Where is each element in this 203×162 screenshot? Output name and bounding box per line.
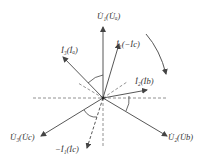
rotation-arrow-icon: [146, 34, 166, 74]
label-U1: U̇₁(U̇ₐ): [97, 12, 120, 21]
label-negI1: −İ₁(İc): [55, 145, 79, 154]
angle-arc-U3-negI1: [84, 110, 97, 117]
label-U3: U̇₃(U̇c): [10, 133, 35, 142]
angle-arc-I3-U1: [88, 75, 103, 83]
label-I3: İ₃(İₐ): [61, 46, 78, 55]
label-I1: İ₁(−İc): [116, 40, 140, 49]
reference-axes: [33, 82, 167, 148]
phasor-diagram: U̇₁(U̇ₐ) İ₁(−İc) İ₃(İₐ) İ₂(İb) U̇₂(U̇b) …: [0, 0, 203, 162]
origin-point: [102, 97, 105, 100]
label-I2: İ₂(İb): [135, 77, 154, 86]
phasor-I1: [103, 44, 119, 98]
phasor-I3: [63, 57, 103, 98]
label-U2: U̇₂(U̇b): [168, 133, 193, 142]
phasor-U2: [103, 98, 167, 136]
phasor-negI1: [87, 98, 103, 148]
